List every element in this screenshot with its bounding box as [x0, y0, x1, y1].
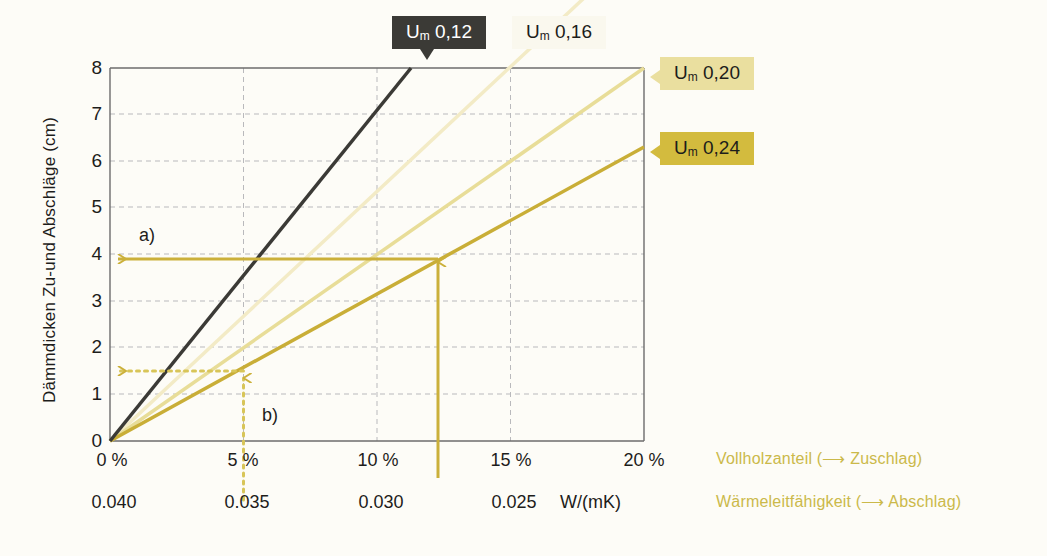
annotation-label-a: a)	[139, 225, 155, 246]
badge-value-um016: 0,16	[550, 21, 592, 42]
badge-text-um012: U	[406, 21, 420, 42]
badge-text-um016: U	[526, 21, 540, 42]
badge-sub-um024: m	[688, 145, 698, 159]
series-callout-um024[interactable]: Um 0,24	[660, 132, 754, 165]
x-tick-lambda-0025: 0.025	[469, 492, 559, 513]
badge-sub-um020: m	[688, 70, 698, 84]
chart-canvas: Dämmdicken Zu-und Abschläge (cm) 8 7 6 5…	[0, 0, 1047, 556]
badge-text-um024: U	[674, 137, 688, 158]
series-callout-um012[interactable]: Um 0,12	[392, 16, 486, 49]
badge-value-um024: 0,24	[698, 137, 740, 158]
badge-text-um020: U	[674, 62, 688, 83]
x-tick-lambda-0030: 0.030	[336, 492, 426, 513]
series-callout-um016[interactable]: Um 0,16	[512, 16, 606, 49]
x-tick-percent-10: 10 %	[333, 450, 423, 471]
plot-graphics	[0, 0, 1047, 556]
series-callout-um020[interactable]: Um 0,20	[660, 57, 754, 90]
x-tick-percent-0: 0 %	[67, 450, 157, 471]
badge-value-um020: 0,20	[698, 62, 740, 83]
x-tick-lambda-0035: 0.035	[202, 492, 292, 513]
x-tick-lambda-0040: 0.040	[69, 492, 159, 513]
axis-note-vollholzanteil: Vollholzanteil (⟶ Zuschlag)	[716, 449, 922, 468]
badge-sub-um012: m	[420, 29, 430, 43]
badge-sub-um016: m	[540, 29, 550, 43]
x-tick-percent-15: 15 %	[466, 450, 556, 471]
x-axis-unit-label: W/(mK)	[560, 492, 621, 513]
badge-value-um012: 0,12	[430, 21, 472, 42]
x-tick-percent-5: 5 %	[198, 450, 288, 471]
annotation-label-b: b)	[262, 405, 278, 426]
axis-note-waermeleitfaehigkeit: Wärmeleitfähigkeit (⟶ Abschlag)	[716, 492, 961, 511]
annotation-a-path	[118, 259, 438, 478]
x-tick-percent-20: 20 %	[599, 450, 689, 471]
